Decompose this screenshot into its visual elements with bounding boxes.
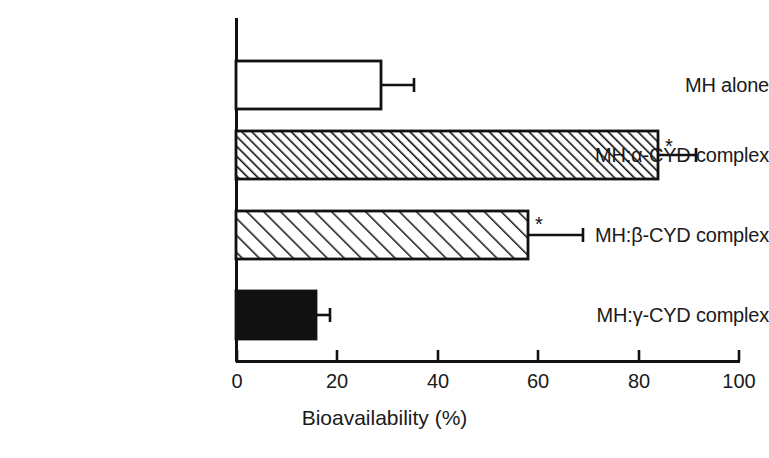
significance-marker-mh-alpha-cyd: * xyxy=(665,136,673,156)
bar-mh-alone xyxy=(236,61,415,109)
x-tick-label-80: 80 xyxy=(609,371,669,391)
x-tick-label-100: 100 xyxy=(709,371,769,391)
category-label-mh-alone: MH alone xyxy=(557,75,769,95)
bar-chart-figure: MH alone MH:α-CYD complex MH:β-CYD compl… xyxy=(0,0,769,458)
x-tick-label-0: 0 xyxy=(207,371,267,391)
bar-mh-gamma-cyd xyxy=(236,291,331,339)
category-label-mh-gamma-cyd: MH:γ-CYD complex xyxy=(557,305,769,325)
bar-mh-beta-cyd xyxy=(236,211,584,259)
error-bar-mh-alone xyxy=(381,78,415,92)
category-label-mh-beta-cyd: MH:β-CYD complex xyxy=(557,225,769,245)
significance-marker-mh-beta-cyd: * xyxy=(535,214,543,234)
x-tick-label-60: 60 xyxy=(508,371,568,391)
x-axis-ticks xyxy=(237,350,739,361)
x-axis-title: Bioavailability (%) xyxy=(0,406,769,430)
category-label-mh-alpha-cyd: MH:α-CYD complex xyxy=(557,145,769,165)
x-tick-label-40: 40 xyxy=(408,371,468,391)
error-bar-mh-gamma-cyd xyxy=(316,308,331,322)
x-tick-label-20: 20 xyxy=(307,371,367,391)
